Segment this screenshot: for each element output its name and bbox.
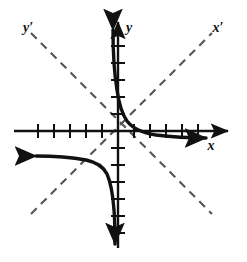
x-prime-axis-label: x′ <box>212 20 224 35</box>
rotated-axes-group <box>31 33 212 214</box>
hyperbola-branch-upper-right <box>113 30 206 138</box>
x-axis-label: x <box>207 138 215 153</box>
y-axis-label: y <box>124 20 133 35</box>
x-axis-group <box>14 124 228 138</box>
hyperbola-figure: x y x′ y′ <box>0 0 247 262</box>
y-prime-axis-label: y′ <box>21 20 33 35</box>
figure-canvas: x y x′ y′ <box>0 0 247 262</box>
